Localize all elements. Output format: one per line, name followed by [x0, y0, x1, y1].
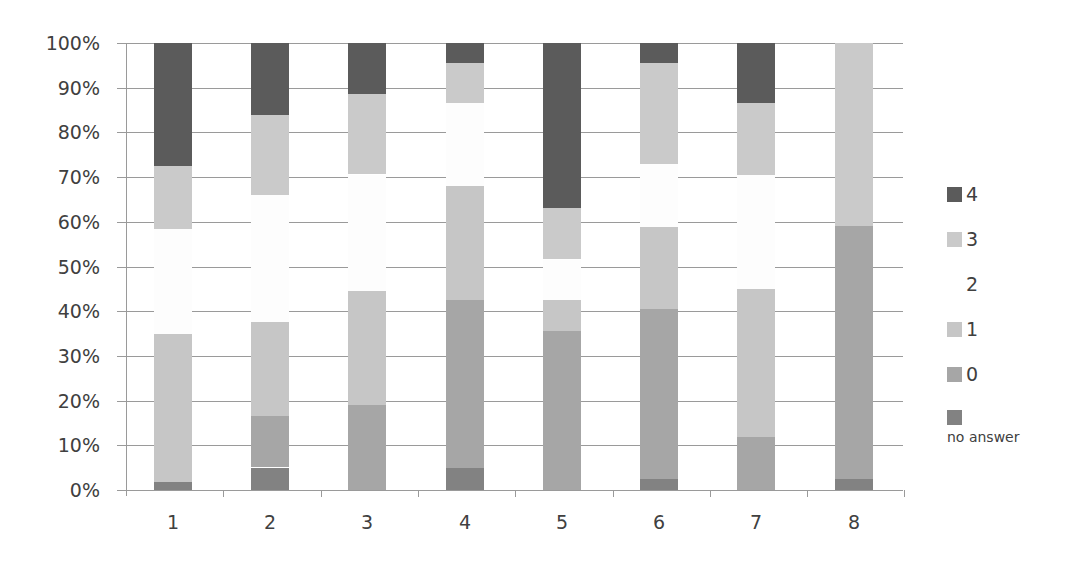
legend-label: no answer — [947, 429, 1019, 445]
bar-segment-1 — [737, 289, 775, 437]
y-tick — [117, 356, 126, 357]
bar-segment-2 — [154, 229, 192, 334]
bar-segment-3 — [640, 63, 678, 164]
y-tick-label: 30% — [10, 346, 100, 366]
bar-segment-1 — [348, 291, 386, 405]
legend-item: 2 — [947, 273, 978, 295]
legend-swatch — [947, 277, 962, 292]
gridline — [117, 222, 903, 223]
y-tick-label: 70% — [10, 167, 100, 187]
y-tick-label: 80% — [10, 122, 100, 142]
bar-segment-0 — [446, 300, 484, 468]
legend-label: 4 — [966, 183, 978, 205]
x-tick-label: 4 — [445, 512, 485, 532]
bar-segment-3 — [348, 94, 386, 174]
y-tick-label: 50% — [10, 257, 100, 277]
y-tick-label: 20% — [10, 391, 100, 411]
y-tick-label: 0% — [10, 480, 100, 500]
legend-swatch — [947, 367, 962, 382]
x-axis-line — [117, 490, 903, 491]
legend-label: 2 — [966, 273, 978, 295]
y-tick — [117, 177, 126, 178]
bar-segment-1 — [543, 300, 581, 331]
legend-label: 0 — [966, 363, 978, 385]
legend-swatch — [947, 322, 962, 337]
bar-segment-no-answer — [835, 479, 873, 490]
gridline — [117, 445, 903, 446]
gridline — [117, 88, 903, 89]
y-tick — [117, 43, 126, 44]
bar-segment-1 — [251, 322, 289, 416]
bar-segment-no-answer — [640, 479, 678, 490]
y-tick-label: 40% — [10, 301, 100, 321]
bar-segment-3 — [737, 103, 775, 175]
bar-segment-4 — [251, 43, 289, 115]
y-tick — [117, 445, 126, 446]
x-tick — [904, 490, 905, 497]
bar-segment-1 — [154, 334, 192, 482]
bar-segment-2 — [543, 260, 581, 300]
bar-segment-0 — [835, 226, 873, 479]
x-tick-label: 8 — [834, 512, 874, 532]
bar-segment-2 — [640, 164, 678, 227]
gridline — [117, 401, 903, 402]
x-tick-label: 1 — [153, 512, 193, 532]
bar-segment-0 — [348, 405, 386, 490]
gridline — [117, 267, 903, 268]
y-tick — [117, 132, 126, 133]
bar-segment-3 — [835, 43, 873, 226]
stacked-bar-chart: 0%10%20%30%40%50%60%70%80%90%100% 123456… — [0, 0, 1073, 569]
legend-item: 3 — [947, 228, 978, 250]
y-tick — [117, 311, 126, 312]
legend-item: 0 — [947, 363, 978, 385]
legend-label: 1 — [966, 318, 978, 340]
gridline — [117, 43, 903, 44]
bar-segment-1 — [446, 186, 484, 300]
bar-segment-3 — [154, 166, 192, 229]
bar-segment-no-answer — [251, 468, 289, 490]
x-tick — [321, 490, 322, 497]
bar-segment-4 — [543, 43, 581, 208]
y-tick-label: 10% — [10, 435, 100, 455]
legend-swatch — [947, 232, 962, 247]
x-tick-label: 6 — [639, 512, 679, 532]
y-tick — [117, 267, 126, 268]
legend-item: 4 — [947, 183, 978, 205]
bar-segment-4 — [154, 43, 192, 166]
bar-segment-4 — [640, 43, 678, 63]
bar-segment-2 — [737, 175, 775, 289]
bar-segment-3 — [543, 208, 581, 259]
x-tick — [418, 490, 419, 497]
bar-segment-3 — [446, 63, 484, 103]
bar-segment-0 — [737, 436, 775, 490]
x-tick — [613, 490, 614, 497]
bar-segment-4 — [348, 43, 386, 94]
bar-segment-0 — [251, 416, 289, 467]
x-tick — [223, 490, 224, 497]
bar-segment-2 — [348, 175, 386, 291]
x-tick — [807, 490, 808, 497]
bar-segment-1 — [640, 226, 678, 309]
bar-segment-0 — [640, 309, 678, 479]
bar-segment-2 — [251, 195, 289, 322]
y-tick — [117, 401, 126, 402]
gridline — [117, 311, 903, 312]
legend-item: no answer — [947, 410, 1019, 445]
gridline — [117, 132, 903, 133]
legend-label: 3 — [966, 228, 978, 250]
x-tick-label: 3 — [347, 512, 387, 532]
y-tick-label: 90% — [10, 78, 100, 98]
y-tick-label: 60% — [10, 212, 100, 232]
bar-segment-no-answer — [446, 468, 484, 490]
bar-segment-2 — [446, 103, 484, 186]
y-tick — [117, 88, 126, 89]
bar-segment-0 — [543, 331, 581, 490]
bar-segment-4 — [737, 43, 775, 103]
legend-item: 1 — [947, 318, 978, 340]
gridline — [117, 177, 903, 178]
gridline — [117, 356, 903, 357]
y-axis-line — [126, 43, 127, 496]
bar-segment-3 — [251, 115, 289, 195]
bar-segment-no-answer — [154, 481, 192, 490]
x-tick — [710, 490, 711, 497]
